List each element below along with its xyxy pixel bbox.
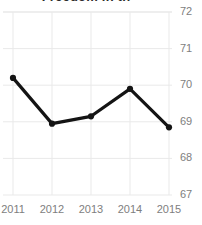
data-point-marker — [127, 86, 133, 92]
line-chart-figure: Freedom in th 676869707172 2011201220132… — [0, 0, 202, 225]
data-point-marker — [10, 75, 16, 81]
y-axis-tick-label: 71 — [180, 42, 192, 54]
x-axis-tick-label: 2012 — [36, 203, 68, 215]
x-axis-tick-label: 2015 — [153, 203, 185, 215]
data-point-marker — [49, 121, 55, 127]
y-axis-tick-label: 67 — [180, 188, 192, 200]
plot-area — [0, 0, 202, 225]
x-axis-tick-label: 2011 — [0, 203, 29, 215]
data-point-marker — [88, 113, 94, 119]
x-axis-tick-label: 2014 — [114, 203, 146, 215]
data-point-marker — [166, 124, 172, 130]
y-axis-tick-label: 72 — [180, 5, 192, 17]
y-axis-tick-label: 70 — [180, 78, 192, 90]
x-axis-tick-label: 2013 — [75, 203, 107, 215]
y-axis-tick-label: 68 — [180, 151, 192, 163]
y-axis-tick-label: 69 — [180, 115, 192, 127]
